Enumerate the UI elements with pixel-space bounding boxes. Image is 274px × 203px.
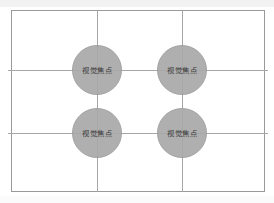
focal-point-label: 视觉焦点 (82, 129, 112, 137)
focal-point-marker-top-right: 视觉焦点 (157, 45, 207, 95)
scan-artifact-top (0, 0, 274, 7)
grid-line-vertical-right (182, 10, 183, 192)
scan-artifact-bottom (0, 196, 274, 203)
grid-line-horizontal-upper (8, 70, 268, 71)
focal-point-marker-top-left: 视觉焦点 (72, 45, 122, 95)
grid-line-vertical-left (97, 10, 98, 192)
image-frame-border (11, 10, 265, 192)
rule-of-thirds-diagram: 视觉焦点 视觉焦点 视觉焦点 视觉焦点 (0, 0, 274, 203)
focal-point-marker-bottom-left: 视觉焦点 (72, 108, 122, 158)
focal-point-label: 视觉焦点 (167, 129, 197, 137)
grid-line-horizontal-lower (8, 133, 268, 134)
focal-point-label: 视觉焦点 (167, 66, 197, 74)
focal-point-marker-bottom-right: 视觉焦点 (157, 108, 207, 158)
focal-point-label: 视觉焦点 (82, 66, 112, 74)
